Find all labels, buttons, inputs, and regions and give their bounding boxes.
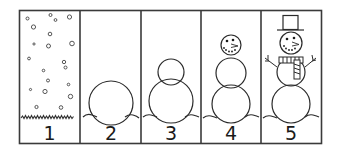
worksheet-canvas: 1 2 3: [0, 0, 340, 157]
snowman-sequence-worksheet: 1 2 3: [0, 0, 340, 157]
panel-number-3: 3: [165, 122, 177, 144]
panel-number-1: 1: [43, 122, 55, 144]
panel-number-2: 2: [105, 122, 117, 144]
panel-number-5: 5: [285, 122, 297, 144]
panel-number-4: 4: [225, 122, 237, 144]
